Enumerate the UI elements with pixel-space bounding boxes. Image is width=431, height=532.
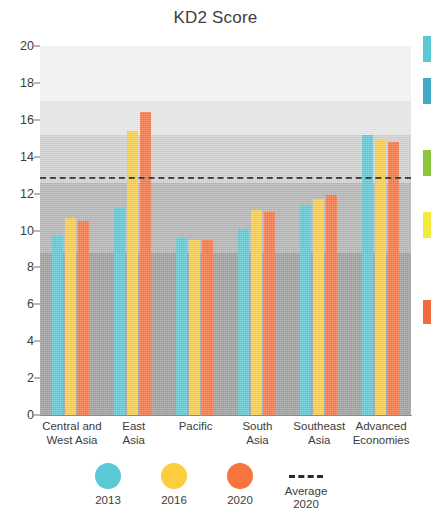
plot-area: [40, 46, 411, 415]
chart-legend: 201320162020Average2020: [0, 463, 431, 529]
y-tick-label: 12: [12, 187, 34, 200]
legend-item-average[interactable]: Average2020: [270, 463, 342, 511]
edge-color-swatches: [423, 0, 431, 532]
bar-2020[interactable]: [264, 212, 275, 415]
bar-2020[interactable]: [202, 240, 213, 415]
y-tick-label: 20: [12, 40, 34, 53]
legend-label: 2016: [138, 494, 210, 507]
bar-2013[interactable]: [52, 236, 63, 415]
x-tick-line: Asia: [96, 433, 172, 447]
bar-group: [164, 46, 226, 415]
y-tick-label: 18: [12, 77, 34, 90]
edge-color-swatch: [423, 212, 431, 238]
bar-2020[interactable]: [326, 195, 337, 415]
bar-2020[interactable]: [140, 112, 151, 415]
x-axis-labels: Central andWest AsiaEastAsiaPacificSouth…: [28, 419, 428, 463]
bar-2016[interactable]: [375, 140, 386, 415]
legend-label: Average2020: [270, 485, 342, 511]
bar-2013[interactable]: [176, 238, 187, 415]
bar-group: [102, 46, 164, 415]
edge-color-swatch: [423, 150, 431, 176]
legend-swatch-circle-icon: [227, 463, 253, 489]
bar-group: [287, 46, 349, 415]
bar-2013[interactable]: [238, 229, 249, 415]
bar-2016[interactable]: [127, 131, 138, 415]
y-tick-label: 16: [12, 114, 34, 127]
edge-color-swatch: [423, 300, 431, 324]
bar-2016[interactable]: [65, 218, 76, 415]
chart-title: KD2 Score: [0, 8, 431, 28]
bar-2013[interactable]: [300, 205, 311, 415]
bar-2020[interactable]: [388, 142, 399, 415]
chart-container: KD2 Score 20181614121086420 Central andW…: [0, 0, 431, 532]
bar-group: [40, 46, 102, 415]
bar-2020[interactable]: [78, 221, 89, 415]
x-tick-label: AdvancedEconomies: [343, 419, 419, 447]
edge-color-swatch: [423, 36, 431, 62]
x-tick-line: Advanced: [343, 419, 419, 433]
x-axis-line: [40, 415, 412, 416]
legend-label: 2013: [72, 494, 144, 507]
legend-swatch-dashed-line-icon: [289, 475, 323, 478]
legend-swatch-circle-icon: [95, 463, 121, 489]
bar-2016[interactable]: [313, 199, 324, 415]
bar-2013[interactable]: [114, 208, 125, 415]
legend-label: 2020: [204, 494, 276, 507]
y-tick-label: 8: [12, 261, 34, 274]
y-tick-label: 4: [12, 335, 34, 348]
y-tick-label: 14: [12, 150, 34, 163]
bar-2016[interactable]: [189, 240, 200, 415]
legend-swatch-circle-icon: [161, 463, 187, 489]
edge-color-swatch: [423, 78, 431, 104]
legend-item-2016[interactable]: 2016: [138, 463, 210, 507]
y-tick-label: 2: [12, 372, 34, 385]
bars-layer: [40, 46, 411, 415]
y-tick-label: 6: [12, 298, 34, 311]
x-tick-line: Economies: [343, 433, 419, 447]
average-line: [40, 177, 411, 179]
y-tick-label: 10: [12, 224, 34, 237]
legend-item-2020[interactable]: 2020: [204, 463, 276, 507]
bar-group: [349, 46, 411, 415]
bar-2016[interactable]: [251, 210, 262, 415]
bar-group: [226, 46, 288, 415]
legend-item-2013[interactable]: 2013: [72, 463, 144, 507]
